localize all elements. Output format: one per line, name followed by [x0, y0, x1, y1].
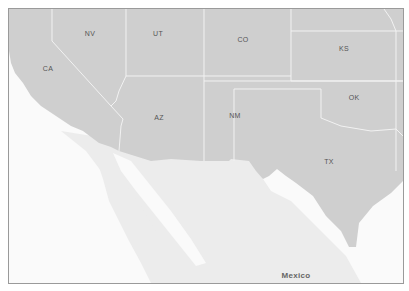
- state-label-ut: UT: [153, 30, 163, 37]
- state-label-ok: OK: [349, 94, 360, 101]
- state-label-tx: TX: [324, 158, 334, 165]
- map-frame[interactable]: NV UT CO KS CA OK AZ NM TX Mexico: [8, 8, 404, 284]
- state-label-co: CO: [237, 36, 248, 43]
- state-label-nm: NM: [229, 112, 241, 119]
- country-label-mexico: Mexico: [282, 271, 311, 280]
- state-label-nv: NV: [85, 30, 95, 37]
- state-label-ca: CA: [43, 65, 53, 72]
- state-label-az: AZ: [154, 114, 164, 121]
- state-label-ks: KS: [339, 45, 349, 52]
